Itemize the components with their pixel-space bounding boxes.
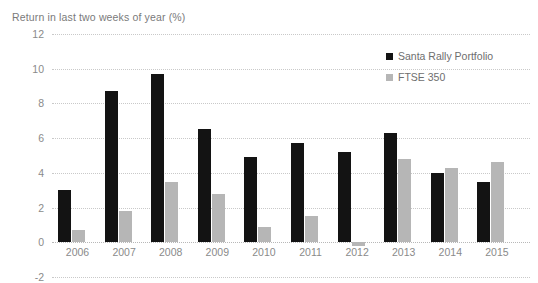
bar-group: 2006 [54, 34, 101, 277]
bar-group: 2009 [194, 34, 241, 277]
bar-santa-rally-portfolio-2013 [384, 133, 397, 242]
bar-ftse-350-2014 [445, 168, 458, 243]
bar-ftse-350-2015 [491, 162, 504, 242]
bar-group: 2007 [101, 34, 148, 277]
legend-label: FTSE 350 [398, 71, 445, 83]
gridline--2 [52, 277, 530, 278]
bar-ftse-350-2011 [305, 216, 318, 242]
bar-santa-rally-portfolio-2014 [431, 173, 444, 242]
x-tick-label-2011: 2011 [287, 246, 334, 258]
legend-label: Santa Rally Portfolio [398, 50, 493, 62]
y-tick-label-10: 10 [32, 63, 44, 75]
x-tick-label-2012: 2012 [334, 246, 381, 258]
y-tick-label-4: 4 [38, 167, 44, 179]
legend-item-santa-rally-portfolio[interactable]: Santa Rally Portfolio [386, 50, 493, 62]
bar-ftse-350-2010 [258, 227, 271, 243]
bar-ftse-350-2007 [119, 211, 132, 242]
bar-santa-rally-portfolio-2012 [338, 152, 351, 242]
bar-ftse-350-2009 [212, 194, 225, 243]
chart-title: Return in last two weeks of year (%) [12, 11, 185, 23]
bar-santa-rally-portfolio-2008 [151, 74, 164, 242]
bar-santa-rally-portfolio-2011 [291, 143, 304, 242]
legend-item-ftse-350[interactable]: FTSE 350 [386, 71, 493, 83]
bar-pair [334, 34, 381, 277]
y-tick-label-8: 8 [38, 97, 44, 109]
x-tick-label-2014: 2014 [427, 246, 474, 258]
y-tick-label-6: 6 [38, 132, 44, 144]
bar-santa-rally-portfolio-2015 [477, 182, 490, 243]
legend: Santa Rally PortfolioFTSE 350 [386, 50, 493, 92]
bar-group: 2008 [147, 34, 194, 277]
x-tick-label-2013: 2013 [380, 246, 427, 258]
bar-santa-rally-portfolio-2007 [105, 91, 118, 242]
bar-pair [101, 34, 148, 277]
bar-group: 2012 [334, 34, 381, 277]
x-tick-label-2006: 2006 [54, 246, 101, 258]
y-tick-label-2: 2 [38, 202, 44, 214]
bar-ftse-350-2006 [72, 230, 85, 242]
bar-santa-rally-portfolio-2009 [198, 129, 211, 242]
y-tick-label-0: 0 [38, 236, 44, 248]
y-tick-label--2: -2 [35, 271, 44, 283]
x-tick-label-2007: 2007 [101, 246, 148, 258]
bar-santa-rally-portfolio-2010 [244, 157, 257, 242]
x-tick-label-2009: 2009 [194, 246, 241, 258]
x-tick-label-2008: 2008 [147, 246, 194, 258]
bar-pair [287, 34, 334, 277]
bar-pair [194, 34, 241, 277]
legend-swatch-icon [386, 74, 393, 81]
x-tick-label-2010: 2010 [240, 246, 287, 258]
bar-pair [240, 34, 287, 277]
bar-ftse-350-2008 [165, 182, 178, 243]
legend-swatch-icon [386, 53, 393, 60]
bar-ftse-350-2012 [352, 242, 365, 245]
bar-santa-rally-portfolio-2006 [58, 190, 71, 242]
bar-ftse-350-2013 [398, 159, 411, 242]
bar-group: 2010 [240, 34, 287, 277]
bar-pair [147, 34, 194, 277]
bar-group: 2011 [287, 34, 334, 277]
y-tick-label-12: 12 [32, 28, 44, 40]
x-tick-label-2015: 2015 [473, 246, 520, 258]
bar-pair [54, 34, 101, 277]
